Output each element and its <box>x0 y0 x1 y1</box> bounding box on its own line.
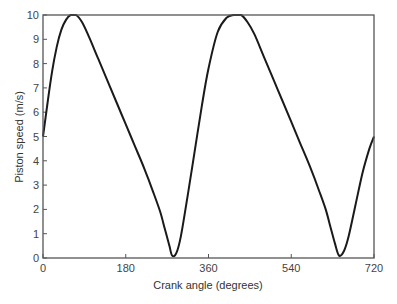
plot-frame <box>43 15 374 258</box>
x-axis-label: Crank angle (degrees) <box>153 279 262 291</box>
x-tick-label: 180 <box>117 262 135 274</box>
x-tick-label: 720 <box>365 262 383 274</box>
y-tick-label: 1 <box>33 228 39 240</box>
y-tick-label: 4 <box>33 155 39 167</box>
y-tick-labels: 012345678910 <box>27 9 39 264</box>
x-tick-labels: 0180360540720 <box>40 262 383 274</box>
y-axis-label: Piston speed (m/s) <box>13 91 25 183</box>
y-tick-label: 10 <box>27 9 39 21</box>
y-tick-label: 2 <box>33 203 39 215</box>
chart: 012345678910 0180360540720 Crank angle (… <box>0 0 397 304</box>
y-tick-label: 7 <box>33 82 39 94</box>
y-tick-label: 5 <box>33 131 39 143</box>
x-tick-label: 360 <box>199 262 217 274</box>
y-tick-label: 9 <box>33 33 39 45</box>
x-tick-label: 0 <box>40 262 46 274</box>
y-tick-label: 0 <box>33 252 39 264</box>
y-tick-label: 8 <box>33 58 39 70</box>
y-tick-label: 6 <box>33 106 39 118</box>
data-line <box>43 15 374 256</box>
ticks <box>43 15 374 258</box>
x-tick-label: 540 <box>282 262 300 274</box>
y-tick-label: 3 <box>33 179 39 191</box>
